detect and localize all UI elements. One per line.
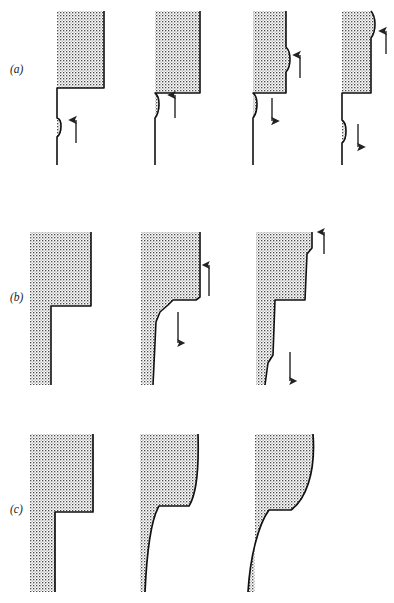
a4-solid-region <box>342 11 375 93</box>
c1-solid-region <box>30 434 93 592</box>
panel-b2 <box>141 232 209 385</box>
figure-canvas: (a) (b) (c) <box>0 0 394 603</box>
a2-solid-region <box>155 11 200 93</box>
panel-b3 <box>256 232 324 385</box>
panel-a2 <box>155 11 200 165</box>
c2-solid-region <box>140 434 198 592</box>
panel-c1 <box>30 434 93 592</box>
panel-a3 <box>253 11 300 165</box>
panel-a1 <box>57 11 104 165</box>
b2-solid-region <box>141 232 200 385</box>
panel-b1 <box>30 232 91 385</box>
a3-solid-region <box>253 11 290 93</box>
panel-c3 <box>248 434 313 592</box>
panel-a4 <box>342 11 386 165</box>
a1-solid-region <box>57 11 104 88</box>
panel-c2 <box>140 434 198 592</box>
b1-solid-region <box>30 232 91 385</box>
c3-solid-region <box>248 434 313 592</box>
b3-solid-region <box>256 232 312 385</box>
figure-graphics <box>0 0 394 603</box>
